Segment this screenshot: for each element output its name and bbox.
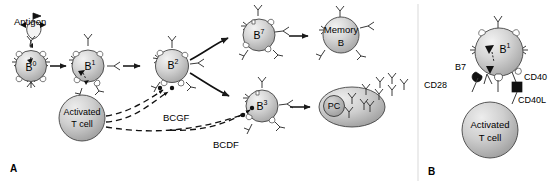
cell-activated-t-a[interactable] xyxy=(59,95,105,141)
receptor-b7-shape xyxy=(472,72,482,92)
label-cd40l: CD40L xyxy=(518,95,546,105)
label-cd28: CD28 xyxy=(424,80,447,90)
cell-b2-group[interactable]: B2 xyxy=(151,36,204,92)
label-cd40: CD40 xyxy=(524,72,547,82)
panelb-tcell-group[interactable]: Activated T cell xyxy=(462,102,518,158)
cell-plasma-label: PC xyxy=(328,101,341,111)
bcgf-dot-1 xyxy=(158,86,162,90)
panel-a-label: A xyxy=(10,163,17,174)
arrow-b2-to-b3 xyxy=(190,73,229,96)
tcell-a-group[interactable]: Activated T cell xyxy=(59,95,105,141)
memory-label-line2: B xyxy=(338,37,344,48)
arrow-bcgf-2 xyxy=(106,92,168,122)
tcell-a-label-line1: Activated xyxy=(63,107,100,117)
panel-b: B1 B7 CD28 CD40 CD40L Activated T cell xyxy=(424,16,547,177)
figure-canvas: B0 Antigen B1 xyxy=(0,0,559,185)
arrow-bcgf-1 xyxy=(106,90,163,116)
tcell-a-label-line2: T cell xyxy=(71,119,92,129)
label-b7: B7 xyxy=(455,62,466,72)
cell-b3-group[interactable]: B3 xyxy=(243,77,293,134)
label-bcgf: BCGF xyxy=(163,112,190,123)
panelb-cell-activated-t[interactable] xyxy=(462,102,518,158)
panel-b-label: B xyxy=(428,166,435,177)
cell-memory-group[interactable]: Memory B xyxy=(316,6,374,60)
bcell-activation-diagram: B0 Antigen B1 xyxy=(0,0,559,185)
label-bcdf: BCDF xyxy=(213,139,239,150)
cell-b1-group[interactable]: B1 xyxy=(69,34,120,99)
panelb-tcell-label-line2: T cell xyxy=(479,132,502,143)
bcgf-dot-2 xyxy=(170,86,174,90)
cell-plasma-group[interactable]: PC xyxy=(319,73,408,127)
panel-a: B0 Antigen B1 xyxy=(10,5,408,174)
cell-b7-group[interactable]: B7 xyxy=(239,5,289,60)
panelb-cell-b1-group[interactable]: B1 xyxy=(470,16,528,76)
antigen-label: Antigen xyxy=(14,16,46,27)
arrow-b2-to-b7 xyxy=(190,38,228,60)
bcdf-dot-2 xyxy=(250,106,254,110)
cell-memory-b[interactable] xyxy=(323,17,359,53)
memory-label-line1: Memory xyxy=(324,24,359,35)
panelb-tcell-label-line1: Activated xyxy=(470,119,509,130)
